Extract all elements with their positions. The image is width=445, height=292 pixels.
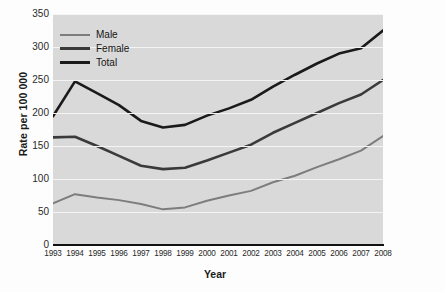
x-axis-tick-label: 2008 bbox=[370, 249, 396, 258]
chart-legend: MaleFemaleTotal bbox=[60, 28, 129, 70]
legend-item-total: Total bbox=[60, 56, 129, 69]
legend-swatch-male bbox=[60, 34, 90, 36]
y-axis-tick-label: 200 bbox=[15, 108, 49, 118]
legend-label-female: Female bbox=[96, 43, 129, 54]
gridline bbox=[53, 80, 383, 81]
legend-item-female: Female bbox=[60, 42, 129, 55]
gridline bbox=[53, 146, 383, 147]
gridline bbox=[53, 212, 383, 213]
chart-figure: Rate per 100 000 050100150200250300350 1… bbox=[0, 0, 445, 292]
legend-item-male: Male bbox=[60, 28, 129, 41]
legend-label-male: Male bbox=[96, 29, 118, 40]
y-axis-tick-label: 150 bbox=[15, 141, 49, 151]
y-axis-tick-label: 300 bbox=[15, 42, 49, 52]
gridline bbox=[53, 179, 383, 180]
gridline bbox=[53, 14, 383, 15]
y-axis-tick-label: 100 bbox=[15, 174, 49, 184]
legend-label-total: Total bbox=[96, 57, 117, 68]
series-line-female bbox=[53, 80, 383, 169]
legend-swatch-total bbox=[60, 61, 90, 64]
gridline bbox=[53, 113, 383, 114]
source-note-container: SOURCE: © All rights reserved. Figure 1 … bbox=[398, 0, 445, 292]
y-axis-tick-label: 250 bbox=[15, 75, 49, 85]
x-axis-line bbox=[53, 244, 384, 246]
x-axis-title: Year bbox=[45, 268, 385, 280]
legend-swatch-female bbox=[60, 47, 90, 50]
y-axis-tick-label: 350 bbox=[15, 9, 49, 19]
y-axis-tick-label: 50 bbox=[15, 207, 49, 217]
